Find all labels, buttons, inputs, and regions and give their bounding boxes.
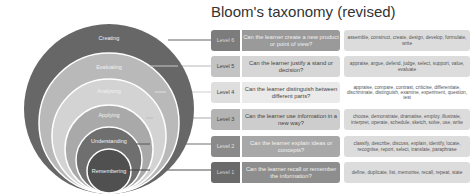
level-badge: Level 4 [211, 82, 240, 103]
level-question: Can the learner recall or remember the i… [242, 162, 340, 183]
level-question: Can the learner use information in a new… [242, 109, 340, 130]
circle-label-remembering: Remembering [92, 168, 127, 174]
level-row-6: Level 6 Can the learner create a new pro… [211, 30, 470, 51]
level-badge: Level 3 [211, 109, 240, 130]
level-question: Can the learner justify a stand or decis… [242, 56, 340, 77]
level-row-3: Level 3 Can the learner use information … [211, 109, 470, 130]
level-question: Can the learner explain ideas or concept… [242, 136, 340, 157]
circle-label-creating: Creating [99, 35, 120, 41]
level-question: Can the learner create a new product or … [242, 30, 340, 51]
level-verbs: choose, demonstrate, dramatise, employ, … [344, 109, 470, 130]
level-verbs: assemble, construct, create, design, dev… [344, 30, 470, 51]
level-verbs: define, duplicate, list, memorise, recal… [344, 162, 470, 183]
blooms-taxonomy-diagram: Creating Evaluating Analysing Applying U… [0, 0, 473, 196]
level-verbs: classify, describe, discuss, explain, id… [344, 136, 470, 157]
circle-label-understanding: Understanding [91, 138, 127, 144]
level-row-1: Level 1 Can the learner recall or rememb… [211, 162, 470, 183]
level-badge: Level 2 [211, 136, 240, 157]
level-badge: Level 6 [211, 30, 240, 51]
level-verbs: appraise, compare, contrast, criticise, … [344, 82, 470, 103]
level-question: Can the learner distinguish between diff… [242, 82, 340, 103]
level-row-2: Level 2 Can the learner explain ideas or… [211, 136, 470, 157]
circle-label-applying: Applying [98, 112, 119, 118]
level-badge: Level 1 [211, 162, 240, 183]
level-row-4: Level 4 Can the learner distinguish betw… [211, 82, 470, 103]
circle-label-analysing: Analysing [97, 88, 121, 94]
level-verbs: appraise, argue, defend, judge, select, … [344, 56, 470, 77]
circle-label-evaluating: Evaluating [96, 64, 122, 70]
page-title: Bloom's taxonomy (revised) [211, 3, 396, 20]
level-row-5: Level 5 Can the learner justify a stand … [211, 56, 470, 77]
level-badge: Level 5 [211, 56, 240, 77]
